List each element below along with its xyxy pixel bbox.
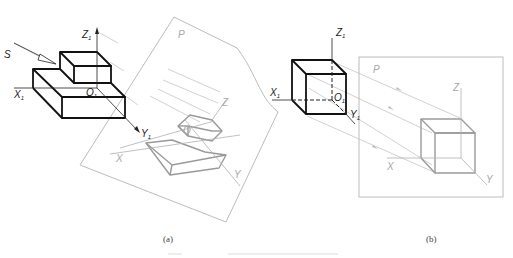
caption-a: (a)	[163, 234, 173, 244]
solid-cube	[292, 60, 346, 114]
label-s: S	[4, 49, 11, 60]
label-z1: Z1	[335, 27, 345, 39]
label-proj-x: X	[115, 153, 123, 164]
label-proj-x: X	[386, 161, 394, 172]
projected-axes	[387, 88, 487, 185]
label-proj-o: O	[183, 125, 191, 136]
label-proj-y: Y	[486, 174, 494, 185]
label-o1: O1	[334, 92, 345, 104]
label-plane-p: P	[373, 64, 380, 75]
panel-a: S Z1 X1 O1 Y1 P Z X Y O (a)	[4, 17, 278, 244]
label-x1: X1	[13, 89, 24, 101]
projection-rays	[307, 61, 460, 173]
label-proj-z: Z	[452, 82, 460, 93]
label-o1: O1	[86, 87, 97, 99]
projected-object	[146, 115, 226, 175]
oblique-projection-figure: S Z1 X1 O1 Y1 P Z X Y O (a)	[0, 0, 513, 258]
projected-cube	[421, 119, 475, 173]
figure-caption-faint	[168, 253, 338, 255]
projected-axes	[110, 100, 240, 186]
label-y1: Y1	[141, 128, 151, 140]
label-plane-p: P	[178, 29, 185, 40]
projection-plane-p	[359, 57, 503, 197]
panel-b: Z1 X1 O1 Y1 P Z X Y (b)	[269, 27, 503, 244]
caption-b: (b)	[426, 234, 437, 244]
label-x1: X1	[269, 87, 280, 99]
projection-plane-p	[80, 17, 278, 222]
label-proj-y: Y	[234, 169, 242, 180]
label-z1: Z1	[81, 29, 91, 41]
label-proj-z: Z	[221, 97, 229, 108]
